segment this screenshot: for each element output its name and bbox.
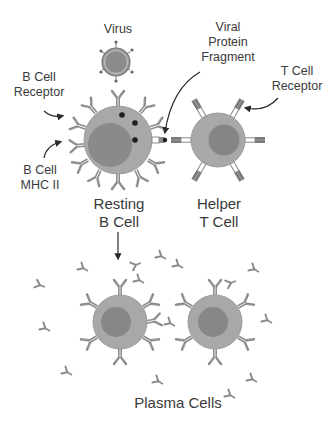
label-line: Helper: [184, 195, 254, 213]
helper-t-cell-label: Helper T Cell: [184, 195, 254, 230]
label-line: Fragment: [188, 50, 268, 65]
label-line: Receptor: [8, 85, 70, 100]
virus-label-text: Virus: [104, 22, 132, 36]
viral-fragment-dot: [132, 137, 138, 143]
viral-fragment-dot: [132, 120, 138, 126]
label-line: T Cell: [264, 64, 330, 79]
plasma-cell-1: [81, 280, 162, 364]
mhc-complex: [152, 137, 167, 143]
label-line: B Cell: [84, 213, 154, 231]
resting-b-cell: [69, 91, 167, 189]
plasma-cells-label: Plasma Cells: [128, 394, 228, 412]
label-line: Protein: [188, 35, 268, 50]
t-cell-receptor-label: T Cell Receptor: [264, 64, 330, 94]
label-line: MHC II: [12, 178, 68, 193]
b-cell-mhc-arrow: [44, 142, 60, 158]
plasma-cells-label-text: Plasma Cells: [134, 394, 222, 411]
label-line: T Cell: [184, 213, 254, 231]
label-line: Viral: [188, 20, 268, 35]
helper-t-cell: [171, 98, 265, 182]
label-line: B Cell: [8, 70, 70, 85]
resting-b-cell-label: Resting B Cell: [84, 195, 154, 230]
plasma-cell-2: [176, 280, 254, 364]
label-line: Receptor: [264, 79, 330, 94]
t-cell-receptor-arrow: [246, 98, 278, 109]
viral-fragment-dot: [119, 112, 125, 118]
label-line: B Cell: [12, 163, 68, 178]
viral-protein-fragment-label: Viral Protein Fragment: [188, 20, 268, 64]
label-line: Resting: [84, 195, 154, 213]
b-cell-receptor-label: B Cell Receptor: [8, 70, 70, 100]
b-cell-receptor-arrow: [44, 111, 62, 116]
diagram-canvas: Virus Viral Protein Fragment B Cell Rece…: [0, 0, 336, 424]
virus: [99, 40, 133, 82]
b-cell-mhc-label: B Cell MHC II: [12, 163, 68, 193]
virus-label: Virus: [98, 22, 138, 37]
